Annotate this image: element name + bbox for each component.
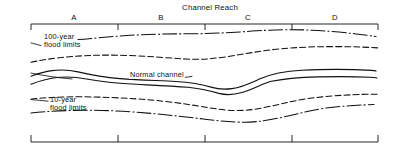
annotation-flood-10-year: 10-year flood limits — [50, 96, 87, 113]
normal-channel-left-bank — [31, 69, 376, 89]
channel-reach-figure: Channel Reach A B C D 100-year flood lim… — [0, 0, 405, 154]
flood-100-year-upper-line — [78, 30, 376, 40]
reach-label-a: A — [54, 14, 94, 23]
annotation-flood-100-year-line2: flood limits — [44, 41, 81, 49]
annotation-normal-channel-line1: Normal channel — [130, 71, 184, 79]
annotation-flood-100-year: 100-year flood limits — [44, 33, 81, 50]
bottom-axis — [31, 135, 378, 142]
leader-10-year — [31, 100, 48, 102]
annotation-flood-10-year-line2: flood limits — [50, 104, 87, 112]
figure-title: Channel Reach — [160, 4, 260, 13]
annotation-normal-channel: Normal channel — [129, 71, 185, 79]
figure-canvas — [0, 0, 405, 154]
top-axis — [31, 24, 378, 30]
reach-label-d: D — [315, 14, 355, 23]
reach-label-c: C — [228, 14, 268, 23]
leader-100-year — [31, 43, 41, 46]
reach-label-b: B — [141, 14, 181, 23]
flood-10-year-upper-line — [31, 47, 378, 63]
